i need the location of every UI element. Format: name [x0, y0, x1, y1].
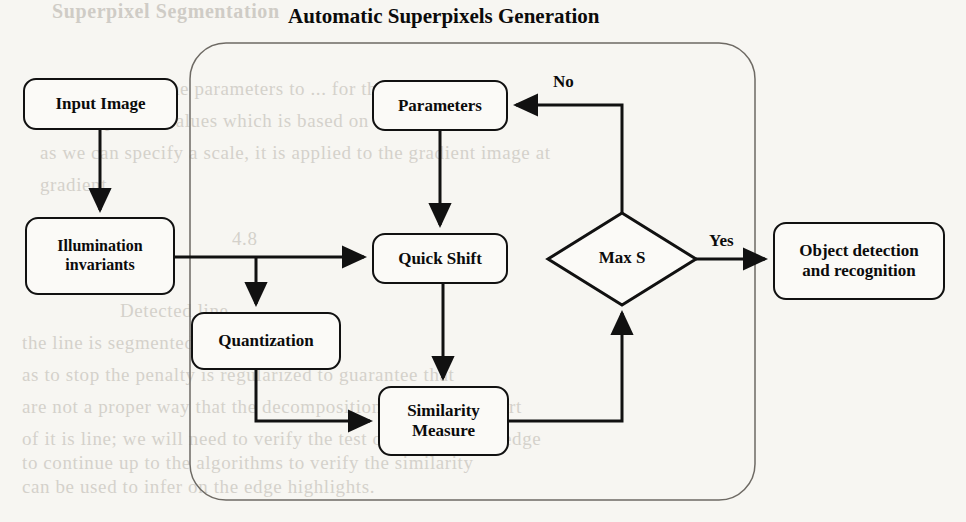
- node-input-image: Input Image: [23, 78, 178, 130]
- node-quick-shift: Quick Shift: [372, 233, 508, 284]
- node-input-image-label: Input Image: [49, 94, 151, 114]
- node-quantization-label: Quantization: [212, 331, 319, 351]
- edge-similarity-measure-to-max-s: [509, 313, 622, 421]
- diagram-canvas: Superpixel SegmentationWe usually set th…: [0, 0, 966, 522]
- node-similarity-measure: SimilarityMeasure: [378, 386, 509, 456]
- edge-max-s-to-parameters-no: [516, 105, 622, 213]
- node-quantization: Quantization: [191, 312, 341, 370]
- decision-max-s-label: Max S: [548, 248, 696, 268]
- node-parameters-label: Parameters: [392, 96, 488, 116]
- edge-label-no: No: [553, 72, 574, 92]
- edge-quantization-to-similarity-measure: [256, 370, 370, 421]
- node-quick-shift-label: Quick Shift: [392, 249, 488, 269]
- node-object-detection-and-recognition-label: Object detectionand recognition: [793, 241, 924, 280]
- node-illumination-invariants-label: Illuminationinvariants: [51, 237, 148, 274]
- edge-label-yes: Yes: [709, 231, 734, 251]
- node-similarity-measure-label: SimilarityMeasure: [401, 401, 486, 440]
- node-parameters: Parameters: [372, 80, 508, 131]
- node-object-detection-and-recognition: Object detectionand recognition: [773, 222, 945, 300]
- node-illumination-invariants: Illuminationinvariants: [25, 217, 175, 295]
